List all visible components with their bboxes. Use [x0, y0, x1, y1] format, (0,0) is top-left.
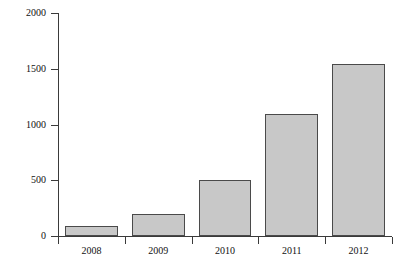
x-tick-mark [258, 237, 259, 244]
y-tick-label: 1500 [0, 64, 46, 74]
bar-2008 [65, 226, 118, 236]
y-tick-label: 500 [0, 175, 46, 185]
bar-2011 [265, 114, 318, 236]
x-tick-mark [58, 237, 59, 244]
bar-chart: $ Millions 0500100015002000 200820092010… [0, 0, 405, 262]
x-tick-label: 2008 [67, 245, 115, 256]
y-tick-label: 2000 [0, 8, 46, 18]
x-tick-mark [125, 237, 126, 244]
y-tick-label: 1000 [0, 120, 46, 130]
y-tick-label: 0 [0, 231, 46, 241]
bar-2010 [199, 180, 252, 236]
x-tick-label: 2010 [201, 245, 249, 256]
bar-2012 [332, 64, 385, 236]
x-tick-label: 2012 [335, 245, 383, 256]
x-tick-label: 2009 [134, 245, 182, 256]
x-tick-mark [325, 237, 326, 244]
bar-2009 [132, 214, 185, 236]
x-tick-label: 2011 [268, 245, 316, 256]
bars-layer [58, 13, 392, 236]
x-axis-line [58, 236, 392, 237]
x-tick-mark [192, 237, 193, 244]
x-tick-mark [392, 237, 393, 244]
